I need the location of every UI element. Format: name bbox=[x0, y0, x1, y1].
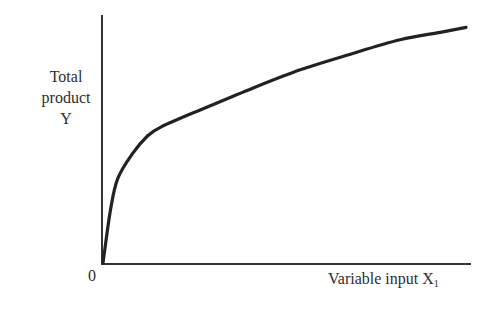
x-axis-label-subscript: 1 bbox=[434, 278, 439, 289]
total-product-chart bbox=[0, 0, 495, 314]
total-product-curve bbox=[103, 27, 466, 263]
x-axis-label-text: Variable input X bbox=[328, 270, 434, 287]
y-axis-label-line-1: Total bbox=[28, 66, 104, 87]
y-axis-label-line-2: product bbox=[28, 87, 104, 108]
y-axis-label: Total product Y bbox=[28, 66, 104, 129]
x-axis-label: Variable input X1 bbox=[328, 270, 439, 289]
origin-label: 0 bbox=[88, 267, 96, 285]
y-axis-label-line-3: Y bbox=[28, 108, 104, 129]
